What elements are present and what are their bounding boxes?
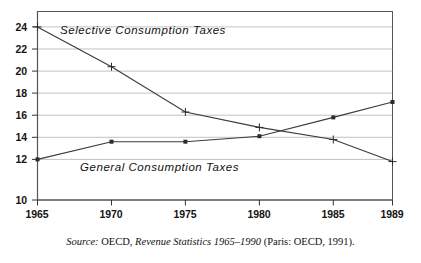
y-axis-tick-label: 16 <box>1 109 27 121</box>
x-axis-tick-label: 1965 <box>15 208 59 220</box>
series-label-general: General Consumption Taxes <box>80 161 239 173</box>
y-axis-tick-label: 22 <box>1 43 27 55</box>
y-axis-tick-label: 14 <box>1 131 27 143</box>
marker-square <box>257 134 261 138</box>
x-axis-ticks <box>38 200 393 206</box>
x-axis-tick-label: 1980 <box>237 208 281 220</box>
marker-square <box>36 157 40 161</box>
y-axis-tick-label: 24 <box>1 21 27 33</box>
y-axis-tick-label: 10 <box>1 194 27 206</box>
source-prefix: Source: <box>66 236 98 247</box>
source-publisher: OECD, <box>99 236 135 247</box>
y-axis-tick-label: 20 <box>1 65 27 77</box>
marker-square <box>110 140 114 144</box>
marker-square <box>331 115 335 119</box>
source-suffix: (Paris: OECD, 1991). <box>261 236 355 247</box>
series-label-selective: Selective Consumption Taxes <box>60 24 226 36</box>
marker-square <box>391 100 395 104</box>
y-axis-tick-label: 18 <box>1 87 27 99</box>
y-axis-ticks <box>32 27 38 200</box>
chart-figure: 24 22 20 18 16 14 12 10 1965 1970 1975 1… <box>0 0 421 263</box>
x-axis-tick-label: 1989 <box>370 208 414 220</box>
source-note: Source: OECD, Revenue Statistics 1965–19… <box>0 236 421 247</box>
source-title: Revenue Statistics 1965–1990 <box>135 236 261 247</box>
x-axis-tick-label: 1970 <box>89 208 133 220</box>
y-axis-tick-label: 12 <box>1 153 27 165</box>
x-axis-tick-label: 1975 <box>163 208 207 220</box>
x-axis-tick-label: 1985 <box>311 208 355 220</box>
marker-square <box>183 140 187 144</box>
